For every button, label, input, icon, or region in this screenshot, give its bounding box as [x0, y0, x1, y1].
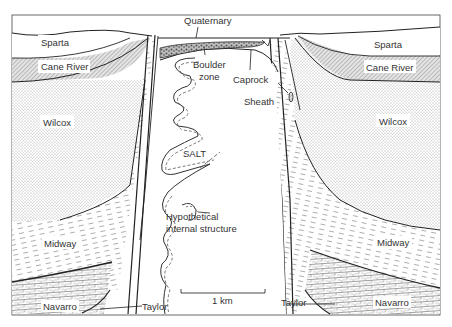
label-boulder-zone-2: zone — [199, 71, 220, 82]
label-sparta-left: Sparta — [41, 37, 70, 48]
label-sparta-right: Sparta — [374, 39, 403, 50]
taylor-left-leader — [100, 306, 142, 309]
label-wilcox-left: Wilcox — [43, 117, 71, 128]
salt-dome-cross-section: Quaternary Sparta Cane River Wilcox Midw… — [0, 0, 452, 327]
label-cane-river-right: Cane River — [366, 62, 414, 73]
label-navarro-right: Navarro — [375, 297, 409, 308]
salt-core — [150, 38, 290, 314]
label-navarro-left: Navarro — [43, 301, 77, 312]
label-taylor-left: Taylor — [142, 301, 167, 312]
sheath-lens — [289, 92, 293, 102]
label-scale: 1 km — [212, 295, 233, 306]
label-hypothetical-2: internal structure — [166, 223, 237, 234]
label-quaternary: Quaternary — [184, 15, 232, 26]
label-wilcox-right: Wilcox — [379, 116, 407, 127]
label-caprock: Caprock — [233, 74, 269, 85]
label-salt: SALT — [183, 148, 206, 159]
label-hypothetical-1: Hypothetical — [166, 211, 218, 222]
label-sheath: Sheath — [244, 96, 274, 107]
quaternary-leader — [196, 27, 198, 38]
label-midway-left: Midway — [44, 238, 76, 249]
label-cane-river-left: Cane River — [41, 61, 89, 72]
salt-body — [150, 51, 286, 314]
label-boulder-zone-1: Boulder — [193, 59, 226, 70]
label-taylor-right: Taylor — [281, 297, 306, 308]
label-midway-right: Midway — [377, 237, 409, 248]
